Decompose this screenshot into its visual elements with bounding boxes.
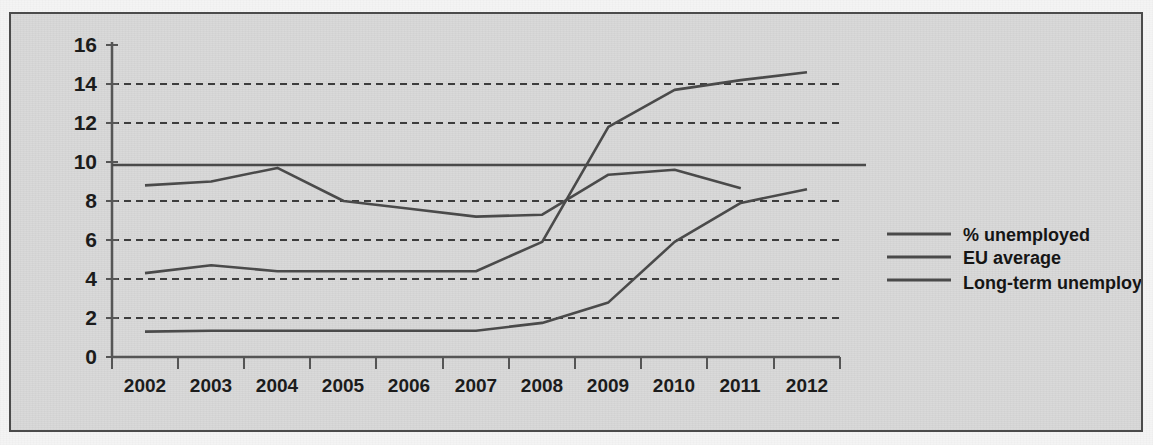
x-tick-label: 2003 <box>190 375 232 396</box>
line-chart: 16 14 12 10 8 6 4 2 0 2002 2003 2004 200… <box>11 14 1141 430</box>
x-tick-label: 2006 <box>388 375 430 396</box>
legend-label-long-term-unemployed: Long-term unemployed <box>963 273 1141 293</box>
y-tick-label: 14 <box>74 72 98 95</box>
y-axis-tick-labels: 16 14 12 10 8 6 4 2 0 <box>74 33 98 368</box>
y-tick-label: 6 <box>85 228 97 251</box>
y-tick-label: 0 <box>85 345 97 368</box>
y-tick-label: 10 <box>74 150 97 173</box>
series-line-eu-average <box>145 168 741 217</box>
legend-label-pct-unemployed: % unemployed <box>963 225 1090 245</box>
series-line-pct-unemployed <box>145 72 807 273</box>
x-tick-label: 2004 <box>256 375 299 396</box>
y-tick-label: 16 <box>74 33 97 56</box>
axes <box>106 42 840 369</box>
chart-screenshot: 16 14 12 10 8 6 4 2 0 2002 2003 2004 200… <box>0 0 1153 445</box>
series-line-long-term-unemployed <box>145 189 807 331</box>
figure-frame: 16 14 12 10 8 6 4 2 0 2002 2003 2004 200… <box>9 12 1143 432</box>
y-tick-label: 8 <box>85 189 97 212</box>
y-tick-label: 2 <box>85 306 97 329</box>
y-tick-label: 12 <box>74 111 97 134</box>
x-tick-label: 2008 <box>521 375 563 396</box>
legend-label-eu-average: EU average <box>963 248 1061 268</box>
x-tick-label: 2010 <box>653 375 695 396</box>
x-axis-tick-labels: 2002 2003 2004 2005 2006 2007 2008 2009 … <box>124 375 828 396</box>
x-tick-label: 2002 <box>124 375 166 396</box>
x-tick-label: 2009 <box>587 375 629 396</box>
x-tick-label: 2007 <box>455 375 497 396</box>
x-tick-label: 2012 <box>786 375 828 396</box>
legend: % unemployed EU average Long-term unempl… <box>887 225 1141 293</box>
gridlines <box>112 84 840 318</box>
y-tick-label: 4 <box>85 267 97 290</box>
x-tick-label: 2005 <box>322 375 365 396</box>
x-tick-label: 2011 <box>719 375 761 396</box>
x-tick-marks <box>112 357 840 369</box>
